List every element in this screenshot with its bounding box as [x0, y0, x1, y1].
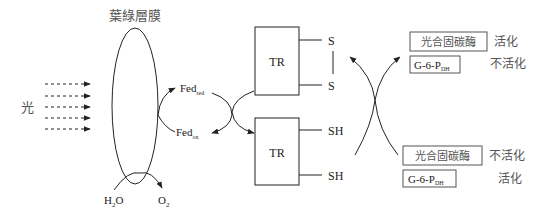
tr-oxidized-label: TR — [269, 55, 284, 69]
svg-text:光合固碳酶: 光合固碳酶 — [415, 149, 470, 163]
fed-oxidize-arrow — [212, 93, 232, 133]
membrane-label: 葉綠層膜 — [109, 8, 161, 23]
sh-top: SH — [328, 124, 344, 138]
thylakoid-membrane — [112, 28, 158, 184]
oxidize-enzyme-arrow — [350, 57, 375, 155]
svg-text:G-6-PDH: G-6-PDH — [408, 173, 444, 186]
svg-text:G-6-PDH: G-6-PDH — [414, 59, 450, 72]
state-rubisco-bottom: 不活化 — [489, 149, 525, 163]
tr-reduced-label: TR — [269, 146, 284, 160]
sh-bottom: SH — [328, 169, 344, 183]
water-label: H2O — [104, 194, 123, 209]
fed-reduce-arrow — [158, 88, 175, 115]
state-g6pdh-bottom: 活化 — [498, 172, 522, 186]
tr-reduce-arrow — [232, 91, 254, 133]
reduce-enzyme-arrow — [375, 57, 400, 155]
light-regulation-diagram: 葉綠層膜 光 H2O O2 Fedred Fedox TR S S TR SH … — [0, 0, 547, 212]
sulfur-bottom: S — [328, 79, 335, 93]
fed-ox-line — [158, 115, 175, 132]
state-rubisco-top: 活化 — [494, 35, 518, 49]
light-label: 光 — [21, 100, 34, 115]
oxygen-label: O2 — [158, 194, 170, 209]
fed-ox-label: Fedox — [176, 126, 199, 140]
light-arrows — [45, 84, 90, 129]
water-split-arrow — [114, 173, 162, 190]
svg-text:光合固碳酶: 光合固碳酶 — [421, 35, 476, 49]
sulfur-top: S — [328, 34, 335, 48]
fed-red-label: Fedred — [180, 82, 204, 96]
state-g6pdh-top: 不活化 — [490, 57, 526, 71]
